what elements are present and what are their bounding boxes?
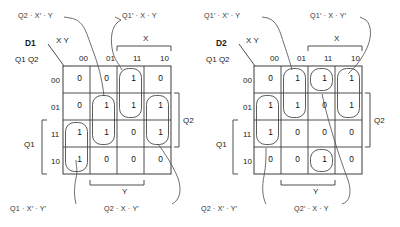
d2-grid-lines xyxy=(254,66,362,174)
d2-corner-diagonal xyxy=(239,44,255,66)
d1-bracket-y xyxy=(90,180,144,185)
d1-bracket-q1 xyxy=(42,120,47,174)
d1-bracket-x xyxy=(117,46,171,51)
d2-bracket-y xyxy=(281,180,335,185)
kmap-vector-layer xyxy=(0,0,400,227)
d2-bracket-x xyxy=(308,46,362,51)
d1-bracket-q2 xyxy=(174,93,179,147)
d2-leader-ticks xyxy=(262,17,366,20)
d1-corner-diagonal xyxy=(48,44,64,66)
karnaugh-map-figure: Q2 · X′ · Y Q1′ · X · Y D1 X Y Q1 Q2 00 … xyxy=(0,0,400,227)
d2-bracket-q1 xyxy=(233,120,238,174)
d1-grid-lines xyxy=(63,66,171,174)
d2-bracket-q2 xyxy=(365,93,370,147)
